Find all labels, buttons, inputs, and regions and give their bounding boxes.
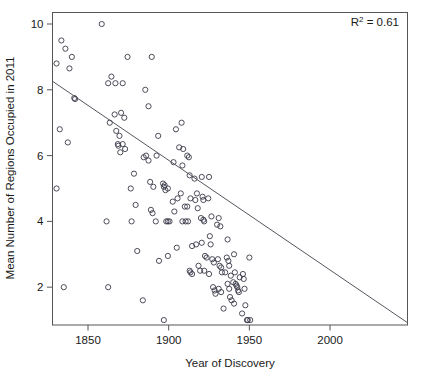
- scatter-plot-figure: 1850190019502000 246810 Year of Discover…: [0, 0, 425, 376]
- x-tick-label-1900: 1900: [156, 334, 182, 346]
- y-tick-label-8: 8: [37, 84, 43, 96]
- x-tick-label-1950: 1950: [237, 334, 263, 346]
- x-tick-label-1850: 1850: [75, 334, 101, 346]
- y-tick-label-6: 6: [37, 150, 43, 162]
- y-tick-label-10: 10: [31, 18, 44, 30]
- y-axis-title: Mean Number of Regions Occupied in 2011: [4, 57, 16, 280]
- r-squared-value: = 0.61: [364, 16, 400, 28]
- r-squared-annotation: R2 = 0.61: [351, 15, 399, 28]
- chart-canvas: 1850190019502000 246810 Year of Discover…: [0, 0, 425, 376]
- r-squared-prefix: R: [351, 16, 359, 28]
- y-tick-label-4: 4: [37, 215, 44, 227]
- x-axis-title: Year of Discovery: [185, 357, 275, 369]
- plot-background: [0, 0, 425, 376]
- x-tick-label-2000: 2000: [317, 334, 343, 346]
- y-tick-label-2: 2: [37, 281, 43, 293]
